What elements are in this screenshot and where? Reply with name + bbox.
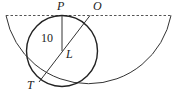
segment-OT xyxy=(39,16,90,83)
geometry-diagram: P O L T 10 xyxy=(0,0,172,112)
label-radius: 10 xyxy=(41,31,53,45)
large-semicircle xyxy=(6,16,171,84)
label-L: L xyxy=(65,47,73,61)
label-O: O xyxy=(93,0,102,13)
label-T: T xyxy=(27,78,35,92)
label-P: P xyxy=(56,0,65,13)
